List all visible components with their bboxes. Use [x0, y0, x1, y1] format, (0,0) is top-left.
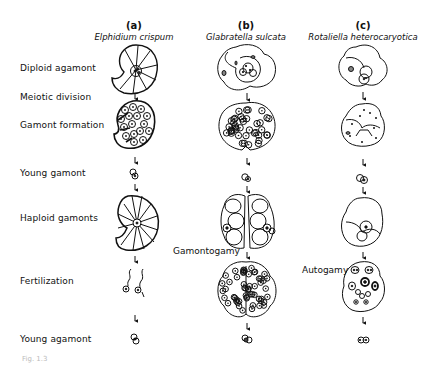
a-diploid-agamont-shell: [112, 45, 157, 94]
cell-nucleus: [231, 129, 233, 131]
cell-nucleus: [259, 305, 261, 307]
column-b-drawings: [218, 45, 276, 343]
a-gamont-formation: [114, 101, 155, 149]
cell-nucleus: [234, 118, 236, 120]
column-a-drawings: [112, 45, 158, 344]
cell-nucleus: [254, 285, 256, 287]
a-haploid-gamont-shell: [116, 196, 158, 250]
cell-nucleus: [261, 129, 263, 131]
cell-nucleus: [254, 132, 256, 134]
cell-nucleus: [243, 269, 245, 271]
cell-nucleus: [238, 135, 240, 137]
life-cycle-figure: [0, 0, 435, 367]
cell-nucleus: [266, 278, 268, 280]
cell-nucleus: [267, 134, 269, 136]
b-young-gamont: [242, 174, 251, 182]
cell-nucleus: [244, 143, 246, 145]
cell-nucleus: [267, 296, 269, 298]
cell-nucleus: [224, 297, 226, 299]
cell-nucleus: [258, 298, 260, 300]
cell-nucleus: [250, 294, 252, 296]
cell-nucleus: [263, 280, 265, 282]
cell-nucleus: [246, 298, 248, 300]
a-fertilization-gametes: [123, 269, 144, 297]
cell-nucleus: [246, 118, 248, 120]
c-young-gamont: [357, 175, 368, 184]
cell-nucleus: [261, 110, 263, 112]
cell-nucleus: [254, 271, 256, 273]
cell-nucleus: [242, 310, 244, 312]
cell-nucleus: [229, 281, 231, 283]
cell-nucleus: [264, 273, 266, 275]
cell-nucleus: [258, 140, 260, 142]
cell-nucleus: [236, 276, 238, 278]
figure-caption: Fig. 1.3: [22, 355, 48, 363]
c-gamont-formation: [342, 104, 385, 147]
c-young-agamont: [358, 337, 369, 343]
column-c-drawings: [339, 45, 387, 343]
c-haploid-gamont-shell: [342, 198, 383, 247]
cell-nucleus: [240, 116, 242, 118]
cell-nucleus: [239, 127, 241, 129]
cell-nucleus: [258, 134, 260, 136]
cell-nucleus: [246, 109, 248, 111]
cell-nucleus: [247, 288, 249, 290]
cell-nucleus: [242, 143, 244, 145]
cell-nucleus: [238, 305, 240, 307]
cell-nucleus: [222, 290, 224, 292]
cell-nucleus: [251, 267, 253, 269]
c-autogamy-shell: [342, 262, 384, 312]
cell-nucleus: [236, 299, 238, 301]
cell-nucleus: [258, 278, 260, 280]
b-diploid-agamont-shell: [218, 45, 276, 90]
c-diploid-agamont-shell: [339, 45, 387, 86]
cell-nucleus: [221, 283, 223, 285]
cell-nucleus: [265, 288, 267, 290]
cell-nucleus: [248, 273, 250, 275]
cell-nucleus: [233, 122, 235, 124]
b-gamontogamy-cluster: [218, 262, 276, 317]
a-young-agamont: [131, 334, 139, 344]
b-haploid-gamonts-pair: [221, 194, 275, 248]
b-gamont-formation: [219, 102, 275, 150]
cell-nucleus: [245, 135, 247, 137]
cell-nucleus: [225, 275, 227, 277]
cell-nucleus: [249, 129, 251, 131]
a-young-gamont: [130, 169, 138, 179]
cell-nucleus: [259, 122, 261, 124]
cell-nucleus: [227, 302, 229, 304]
cell-nucleus: [238, 111, 240, 113]
b-young-agamont: [242, 335, 252, 343]
cell-nucleus: [236, 300, 238, 302]
cell-nucleus: [235, 270, 237, 272]
cell-nucleus: [247, 109, 249, 111]
cell-nucleus: [266, 117, 268, 119]
cell-nucleus: [252, 305, 254, 307]
cell-nucleus: [226, 132, 228, 134]
cell-nucleus: [248, 144, 250, 146]
